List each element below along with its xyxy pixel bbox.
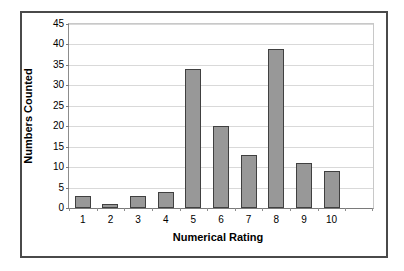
y-tick-mark (66, 126, 69, 127)
y-tick-label: 45 (53, 19, 64, 29)
x-tick-mark (207, 208, 208, 211)
x-tick-label: 6 (218, 215, 224, 225)
x-tick-label: 3 (135, 215, 141, 225)
y-tick-mark (66, 85, 69, 86)
y-tick-label: 40 (53, 39, 64, 49)
bar (158, 192, 174, 208)
gridline (69, 85, 373, 86)
x-tick-mark (180, 208, 181, 211)
y-axis-title: Numbers Counted (20, 51, 36, 181)
y-tick-mark (66, 147, 69, 148)
x-tick-mark (262, 208, 263, 211)
y-tick-mark (66, 188, 69, 189)
bar (241, 155, 257, 208)
chart-figure: Numbers Counted 051015202530354045123456… (20, 11, 388, 258)
x-tick-label: 1 (80, 215, 86, 225)
x-tick-mark (152, 208, 153, 211)
x-tick-label: 7 (246, 215, 252, 225)
y-tick-label: 0 (58, 203, 64, 213)
bar (185, 69, 201, 208)
y-tick-mark (66, 44, 69, 45)
x-tick-label: 5 (191, 215, 197, 225)
x-tick-mark (372, 208, 373, 211)
x-tick-mark (69, 208, 70, 211)
y-tick-label: 5 (58, 183, 64, 193)
x-tick-mark (318, 208, 319, 211)
x-tick-label: 8 (273, 215, 279, 225)
bar (324, 171, 340, 208)
x-tick-label: 10 (326, 215, 337, 225)
y-tick-mark (66, 167, 69, 168)
bar (296, 163, 312, 208)
x-tick-mark (290, 208, 291, 211)
gridline (69, 24, 373, 25)
y-tick-label: 30 (53, 80, 64, 90)
x-tick-mark (345, 208, 346, 211)
bar (102, 204, 118, 208)
gridline (69, 65, 373, 66)
y-tick-label: 20 (53, 121, 64, 131)
x-axis-title: Numerical Rating (68, 231, 368, 243)
x-tick-mark (97, 208, 98, 211)
y-tick-label: 35 (53, 60, 64, 70)
x-tick-mark (235, 208, 236, 211)
y-tick-mark (66, 65, 69, 66)
y-tick-label: 10 (53, 162, 64, 172)
bar (213, 126, 229, 208)
y-tick-label: 15 (53, 142, 64, 152)
x-tick-label: 2 (108, 215, 114, 225)
bar (75, 196, 91, 208)
x-tick-label: 9 (301, 215, 307, 225)
y-tick-mark (66, 24, 69, 25)
gridline (69, 44, 373, 45)
x-tick-mark (124, 208, 125, 211)
y-tick-label: 25 (53, 101, 64, 111)
bar (268, 49, 284, 208)
gridline (69, 106, 373, 107)
plot-area: 05101520253035404512345678910 (68, 23, 374, 209)
bar (130, 196, 146, 208)
y-tick-mark (66, 106, 69, 107)
x-tick-label: 4 (163, 215, 169, 225)
